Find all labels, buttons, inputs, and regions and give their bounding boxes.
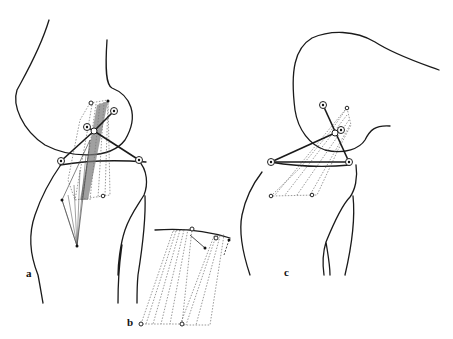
ligament-attach-c-1 bbox=[345, 106, 349, 110]
joint-node-c-center bbox=[332, 130, 338, 136]
ligament-attach-a-2 bbox=[107, 100, 110, 103]
fiber-lines-c bbox=[275, 110, 350, 195]
ligament-attach-a-5 bbox=[101, 194, 105, 198]
panel-a: a bbox=[16, 20, 147, 303]
tibia-right-outline-c bbox=[323, 165, 357, 275]
tibia-right-outline-a bbox=[118, 160, 146, 303]
knee-linkage-figure: a b bbox=[0, 0, 453, 339]
panel-c: c bbox=[241, 32, 439, 278]
panel-label-a: a bbox=[26, 267, 32, 279]
joint-node-c-femoral-top bbox=[320, 102, 327, 109]
joint-node-c-femoral-right bbox=[338, 127, 345, 134]
joint-node-a-tibial-anterior bbox=[136, 157, 143, 164]
ligament-attach-b-1 bbox=[139, 322, 143, 326]
femur-outline-c bbox=[293, 32, 439, 151]
tibia-left-outline-c bbox=[241, 172, 262, 275]
ligament-attach-c-3 bbox=[310, 193, 314, 197]
femur-outline-a bbox=[16, 20, 133, 155]
link-bar-c-1 bbox=[271, 133, 335, 162]
ligament-attach-a-1 bbox=[89, 101, 93, 105]
joint-arc-a bbox=[60, 161, 146, 165]
joint-node-a-center bbox=[91, 128, 97, 134]
ligament-attach-b-3 bbox=[190, 227, 194, 231]
tibia-left-outline-a bbox=[31, 163, 62, 303]
ligament-attach-b-4 bbox=[214, 236, 218, 240]
panel-label-b: b bbox=[127, 316, 133, 328]
ligament-attach-b-2 bbox=[180, 322, 184, 326]
ligament-attach-a-3 bbox=[61, 199, 64, 202]
displacement-dashed-b bbox=[224, 240, 229, 255]
ligament-attach-b-6 bbox=[228, 239, 231, 242]
joint-node-c-tibial-posterior bbox=[268, 159, 275, 166]
displacement-arrow-b bbox=[190, 235, 205, 248]
joint-node-a-tibial-posterior bbox=[58, 158, 65, 165]
ligament-attach-a-4 bbox=[76, 245, 79, 248]
joint-node-a-femoral-anterior bbox=[111, 108, 118, 115]
ligament-attach-b-5 bbox=[204, 247, 207, 250]
panel-label-c: c bbox=[284, 266, 289, 278]
ligament-attach-c-2 bbox=[269, 194, 273, 198]
link-bar-a-2 bbox=[94, 131, 139, 160]
joint-node-c-tibial-anterior bbox=[346, 159, 353, 166]
joint-node-a-femoral-posterior bbox=[84, 124, 91, 131]
